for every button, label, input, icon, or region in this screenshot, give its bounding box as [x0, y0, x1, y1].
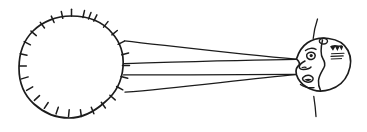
- body-axis-line: [313, 19, 317, 117]
- ear: [319, 38, 327, 44]
- brow: [306, 48, 317, 50]
- diagram-canvas: [0, 0, 367, 132]
- body-axis-top-stroke: [313, 19, 317, 39]
- body-axis-bottom-stroke: [314, 97, 316, 117]
- eye-pupil: [310, 54, 313, 57]
- radiant-disc-outline: [19, 16, 123, 118]
- ray-1: [125, 41, 297, 59]
- head-jaw-contour: [318, 40, 324, 90]
- radiant-disc-tick-marks: [19, 9, 129, 117]
- radiant-disc: [19, 9, 130, 118]
- eye: [307, 52, 316, 59]
- hair-hatching: [330, 45, 344, 59]
- observer-head: [296, 38, 350, 91]
- ray-2: [124, 59, 297, 63]
- ray-bundle: [124, 41, 297, 92]
- mouth-shadow: [304, 79, 311, 81]
- chin: [301, 85, 315, 88]
- line-art-illustration: [0, 0, 367, 132]
- hair-hatch-line-1: [332, 53, 345, 54]
- hair-hatch-line-2: [331, 56, 343, 57]
- ray-3: [124, 74, 297, 75]
- ray-4: [125, 75, 296, 93]
- hair-hatch-tuft: [330, 45, 343, 51]
- nose: [299, 61, 311, 70]
